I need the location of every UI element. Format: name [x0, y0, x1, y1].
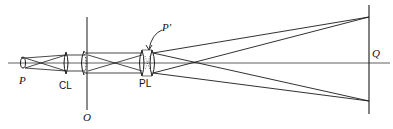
label-source-p: P [19, 75, 26, 86]
source-lamp-icon [21, 57, 26, 68]
ray-diagram-svg [0, 0, 393, 129]
label-projection-lens: PL [139, 79, 151, 89]
optical-diagram: P CL O PL P' Q [0, 0, 393, 129]
label-screen-q: Q [372, 48, 380, 59]
label-pupil-image: P' [162, 22, 171, 33]
label-condenser-lens: CL [59, 81, 72, 91]
label-object-plane: O [83, 112, 91, 123]
